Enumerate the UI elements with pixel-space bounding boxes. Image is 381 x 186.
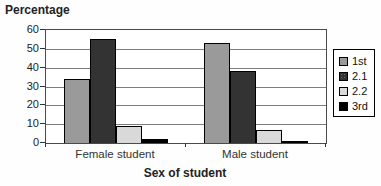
x-tick-mark: [325, 143, 326, 147]
bar-1st: [204, 43, 230, 143]
legend-swatch-icon: [339, 102, 348, 111]
x-tick-mark: [185, 143, 186, 147]
y-tick-label: 50: [13, 42, 39, 54]
y-tick-label: 30: [13, 80, 39, 92]
y-tick-mark: [40, 67, 45, 68]
bar-2.1: [90, 39, 116, 143]
y-tick-label: 10: [13, 117, 39, 129]
legend-label: 3rd: [352, 100, 368, 112]
legend-label: 1st: [352, 55, 367, 67]
y-tick-label: 20: [13, 98, 39, 110]
bar-2.1: [230, 71, 256, 143]
y-tick-label: 60: [13, 23, 39, 35]
plot-area: [45, 29, 327, 144]
y-tick-mark: [40, 104, 45, 105]
x-tick-mark: [45, 143, 46, 147]
y-tick-label: 0: [13, 136, 39, 148]
legend-swatch-icon: [339, 57, 348, 66]
y-tick-mark: [40, 48, 45, 49]
y-tick-mark: [40, 86, 45, 87]
category-labels: Female studentMale student: [45, 148, 325, 160]
bar-chart: Percentage 0102030405060 Female studentM…: [0, 0, 381, 186]
bar-2.2: [116, 126, 142, 143]
legend-item: 1st: [339, 55, 368, 67]
y-tick-mark: [40, 29, 45, 30]
bar-3rd: [142, 139, 168, 143]
legend-item: 2.1: [339, 70, 368, 82]
bar-group: [46, 30, 186, 143]
legend-label: 2.2: [352, 85, 367, 97]
bar-group: [186, 30, 326, 143]
bar-2.2: [256, 130, 282, 143]
legend-swatch-icon: [339, 72, 348, 81]
legend-item: 2.2: [339, 85, 368, 97]
legend-item: 3rd: [339, 100, 368, 112]
category-label: Male student: [185, 148, 325, 160]
category-label: Female student: [45, 148, 185, 160]
legend-label: 2.1: [352, 70, 367, 82]
chart-title: Percentage: [5, 3, 70, 17]
legend: 1st2.12.23rd: [333, 49, 375, 117]
legend-swatch-icon: [339, 87, 348, 96]
y-tick-label: 40: [13, 61, 39, 73]
bar-3rd: [282, 141, 308, 143]
y-tick-mark: [40, 123, 45, 124]
bar-1st: [64, 79, 90, 143]
bar-groups: [46, 30, 326, 143]
x-axis-title: Sex of student: [45, 166, 325, 180]
